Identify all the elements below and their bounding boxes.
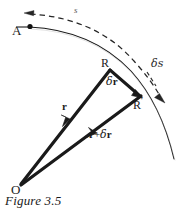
label-point-a: A [12, 24, 21, 37]
label-vector-r-plus-delta-r: r+δr [89, 129, 112, 140]
figure-caption: Figure 3.5 [5, 193, 61, 209]
vector-diagram-canvas [0, 0, 188, 215]
r-plus-delta-variable: r [107, 128, 112, 140]
label-delta-s: δs [151, 58, 163, 69]
label-point-r: R [101, 57, 109, 69]
label-arc-length-s: s [74, 6, 78, 15]
dashed-left-arrowhead [24, 11, 34, 16]
delta-symbol-r: δ [106, 75, 113, 88]
arc-length-dashed-path [30, 14, 160, 96]
dashed-right-arrowhead [155, 94, 166, 104]
label-vector-r: r [62, 101, 67, 112]
label-point-r-prime-base: R [133, 98, 141, 112]
delta-symbol-s: δ [151, 57, 158, 70]
label-point-r-prime-mark: ′ [141, 95, 143, 106]
label-point-r-prime: R′ [133, 96, 143, 111]
figure-3-5-container: A R R′ O s δs δr r r+δr Figure 3.5 [0, 0, 188, 215]
delta-s-variable: s [158, 57, 164, 70]
delta-s-tick [147, 72, 156, 86]
delta-r-variable: r [113, 75, 118, 87]
label-delta-r: δr [106, 76, 118, 87]
delta-symbol-r2: δ [100, 128, 107, 141]
vector-r-variable: r [62, 100, 67, 112]
